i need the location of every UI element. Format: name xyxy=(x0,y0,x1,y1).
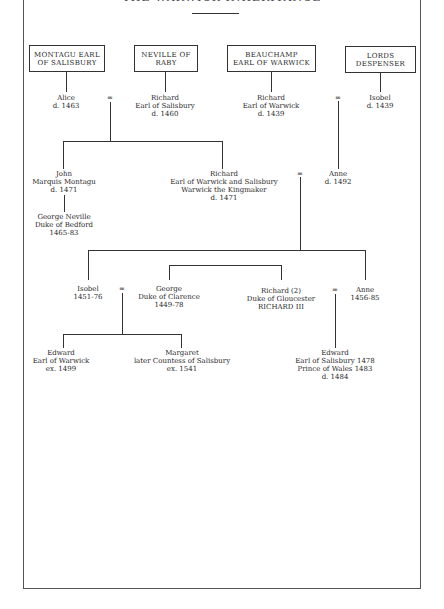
person-george-clarence: GeorgeDuke of Clarence1449-78 xyxy=(138,285,200,309)
house-label: DESPENSER xyxy=(346,60,415,68)
person-edward-warwick: EdwardEarl of Warwickex. 1499 xyxy=(33,349,90,373)
person-isobel: Isobel1451-76 xyxy=(73,285,102,301)
house-neville: NEVILLE OF RABY xyxy=(134,45,198,72)
marriage-symbol: = xyxy=(332,287,338,294)
connector xyxy=(380,73,381,92)
page-title: THE WARWICK INHERITANCE xyxy=(0,0,444,4)
person-anne: Anne1456-85 xyxy=(350,286,379,302)
person-anne-beauchamp: Anned. 1492 xyxy=(325,170,352,186)
person-richard-salisbury: RichardEarl of Salisburyd. 1460 xyxy=(135,94,194,118)
house-despenser: LORDS DESPENSER xyxy=(345,46,416,73)
connector xyxy=(63,334,182,335)
marriage-symbol: = xyxy=(107,95,113,102)
house-beauchamp: BEAUCHAMP EARL OF WARWICK xyxy=(227,45,316,72)
person-richard-gloucester: Richard (2)Duke of GloucesterRICHARD III xyxy=(247,287,315,311)
connector xyxy=(63,141,64,169)
house-label: MONTAGU EARL xyxy=(30,51,104,59)
connector xyxy=(122,293,123,334)
connector xyxy=(66,72,67,92)
connector xyxy=(281,265,282,280)
connector xyxy=(335,294,336,348)
house-label: OF SALISBURY xyxy=(30,59,104,67)
connector xyxy=(271,72,272,92)
person-richard-warwick: RichardEarl of Warwickd. 1439 xyxy=(243,94,300,118)
person-edward-prince: EdwardEarl of Salisbury 1478Prince of Wa… xyxy=(295,349,375,381)
connector xyxy=(169,265,282,266)
house-montagu: MONTAGU EARL OF SALISBURY xyxy=(29,45,105,72)
person-isobel-despenser: Isobeld. 1439 xyxy=(367,94,394,110)
house-label: LORDS xyxy=(346,52,415,60)
connector xyxy=(63,334,64,348)
connector xyxy=(169,265,170,280)
connector xyxy=(64,195,65,212)
connector xyxy=(365,250,366,280)
connector xyxy=(222,141,223,169)
house-label: RABY xyxy=(135,59,197,67)
house-label: BEAUCHAMP xyxy=(228,51,315,59)
person-kingmaker: RichardEarl of Warwick and SalisburyWarw… xyxy=(170,170,278,202)
person-george-neville: George NevilleDuke of Bedford1465-83 xyxy=(35,213,93,237)
connector xyxy=(338,101,339,169)
connector xyxy=(63,141,223,142)
person-john-montagu: JohnMarquis Montagud. 1471 xyxy=(32,170,96,194)
connector xyxy=(181,334,182,348)
connector xyxy=(300,177,301,250)
marriage-symbol: = xyxy=(119,286,125,293)
connector xyxy=(88,250,89,280)
title-underline xyxy=(192,13,239,14)
house-label: NEVILLE OF xyxy=(135,51,197,59)
person-margaret: Margaretlater Countess of Salisburyex. 1… xyxy=(134,349,230,373)
connector xyxy=(110,102,111,141)
person-alice: Aliced. 1463 xyxy=(53,94,80,110)
connector xyxy=(165,72,166,92)
connector xyxy=(88,250,365,251)
house-label: EARL OF WARWICK xyxy=(228,59,315,67)
